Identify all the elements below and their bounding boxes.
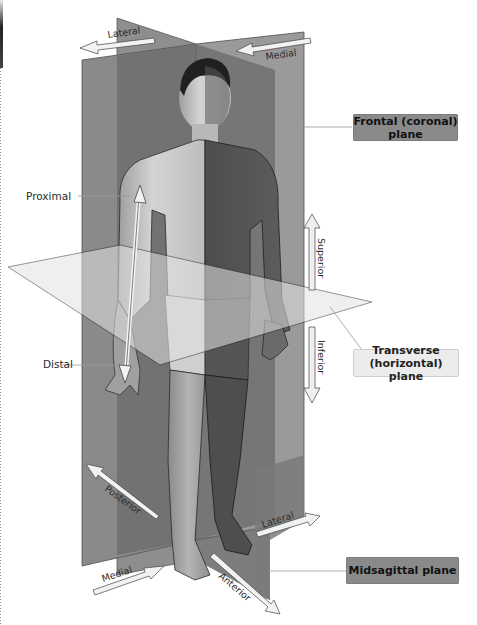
frontal-plane-label-line2: plane [388, 128, 422, 141]
midsagittal-plane-label-text: Midsagittal plane [348, 564, 456, 577]
midsagittal-plane-label: Midsagittal plane [346, 557, 459, 584]
anatomical-planes-diagram: Lateral Medial Superior Inferior Posteri… [0, 0, 477, 625]
frontal-plane-label-line1: Frontal (coronal) [353, 115, 457, 128]
transverse-plane-label: Transverse (horizontal) plane [353, 349, 459, 377]
label-superior: Superior [316, 238, 327, 278]
label-distal: Distal [43, 358, 73, 370]
label-inferior: Inferior [316, 340, 327, 374]
transverse-plane-label-line2: (horizontal) plane [354, 357, 458, 383]
diagram-artwork: Lateral Medial Superior Inferior Posteri… [0, 0, 477, 625]
frontal-plane-label: Frontal (coronal) plane [353, 114, 458, 141]
label-proximal: Proximal [26, 190, 71, 202]
transverse-plane-label-line1: Transverse [372, 344, 440, 357]
